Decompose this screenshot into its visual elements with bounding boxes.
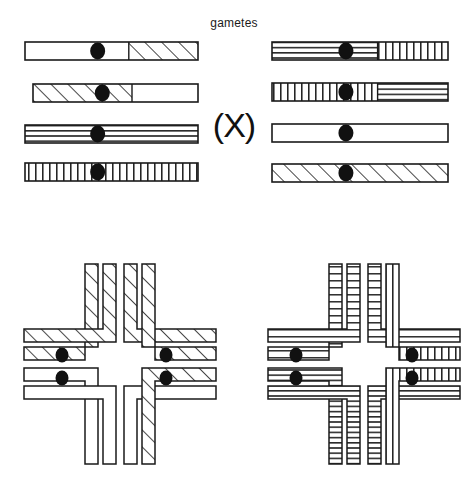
chromosome-body: [272, 164, 448, 182]
bivalent-right-centromere-2: [290, 371, 303, 386]
chromosome-segment-vertical: [378, 42, 448, 60]
bivalent-left-centromere-1: [56, 348, 69, 363]
centromere: [90, 164, 105, 181]
cross-symbol: (X): [0, 106, 468, 145]
chromosome-segment-plain: [132, 84, 198, 102]
bivalent-right-arm-top-right-outer: [368, 264, 460, 342]
centromere: [338, 84, 353, 101]
chromosome-segment-diagonal: [33, 84, 132, 102]
meiosis-gametes-figure: gametes (X): [0, 0, 468, 487]
bivalent-left-arm-top-right-outer: [124, 264, 216, 342]
bivalent-right-centromere-4: [406, 371, 419, 386]
bivalent-left-centromere-3: [160, 348, 173, 363]
parent-2-gametes-chromosome-4: [272, 164, 448, 182]
bivalent-left-arm-top-left: [24, 264, 98, 360]
bivalent-left-arm-bottom-left: [24, 386, 116, 464]
bivalent-left-arm-right-lower: [142, 368, 216, 464]
bivalent-right-arm-left-lower: [268, 368, 342, 464]
bivalent-left-centromere-2: [56, 371, 69, 386]
parent-1-gametes-chromosome-2: [33, 84, 198, 102]
chromosome-segment-diagonal: [129, 42, 198, 60]
centromere: [90, 43, 105, 60]
bivalent-right-arm-bottom-left: [268, 386, 360, 464]
bivalent-left-arm-bottom-right: [124, 386, 216, 464]
centromere: [338, 43, 353, 60]
centromere: [95, 85, 110, 102]
bivalent-left-centromere-4: [160, 371, 173, 386]
chromosome-body: [272, 83, 448, 101]
chromosome-segment-horizontal: [378, 83, 448, 101]
bivalent-right-centromere-3: [406, 348, 419, 363]
bivalent-left-arm-top-right: [24, 264, 116, 342]
gametes-label: gametes: [0, 16, 468, 30]
bivalent-right-centromere-1: [290, 348, 303, 363]
chromosome-body: [272, 42, 448, 60]
chromosome-segment-diagonal: [272, 164, 448, 182]
chromosome-body: [25, 163, 198, 181]
bivalent-left-arm-right-upper: [142, 264, 216, 360]
bivalent-left: [24, 264, 216, 464]
chromosome-diagram-canvas: [0, 0, 468, 487]
chromosome-segment-vertical: [25, 163, 198, 181]
parent-2-gametes-chromosome-2: [272, 83, 448, 101]
bivalent-right-arm-right-lower: [386, 368, 460, 464]
bivalent-right-arm-top-left: [268, 264, 342, 360]
chromosome-segment-horizontal: [272, 42, 378, 60]
parent-1-gametes-chromosome-1: [25, 42, 198, 60]
centromere: [338, 165, 353, 182]
bivalent-right-arm-bottom-right: [368, 386, 460, 464]
chromosome-body: [33, 84, 198, 102]
parent-1-gametes-chromosome-4: [25, 163, 198, 181]
bivalent-right-arm-right-upper: [386, 264, 460, 360]
bivalent-right-arm-top-right: [268, 264, 360, 342]
chromosome-segment-vertical: [272, 83, 378, 101]
chromosome-body: [25, 42, 198, 60]
bivalent-right: [268, 264, 460, 464]
chromosome-segment-plain: [25, 42, 129, 60]
parent-2-gametes-chromosome-1: [272, 42, 448, 60]
